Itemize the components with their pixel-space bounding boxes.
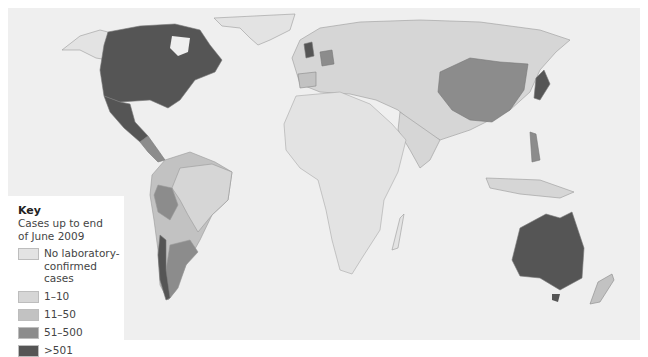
legend-subtitle-line1: Cases up to end [18,217,124,230]
legend-item-51-500: 51–500 [18,326,124,339]
legend-swatch [18,291,39,303]
region-argentina [166,240,198,298]
legend-swatch [18,248,39,260]
region-africa [284,92,406,274]
legend-swatch [18,345,39,357]
legend-item-over-501: >501 [18,344,124,357]
legend-label: 1–10 [44,290,69,303]
legend-swatch [18,327,39,339]
legend-label: confirmed cases [44,260,124,285]
region-usa-canada [100,24,222,108]
region-indonesia [486,178,574,198]
legend-label: No laboratory- [44,247,124,260]
legend: Key Cases up to end of June 2009 No labo… [8,196,124,340]
legend-item-1-10: 1–10 [18,290,124,303]
legend-item-11-50: 11–50 [18,308,124,321]
region-uk [304,42,314,58]
region-spain [298,72,316,88]
region-central-america [140,136,165,162]
region-greenland [214,14,295,45]
legend-label: 51–500 [44,326,83,339]
region-madagascar [392,214,404,250]
region-mexico [104,96,148,142]
legend-label: 11–50 [44,308,76,321]
region-germany [320,50,334,66]
region-australia [512,212,584,290]
region-philippines [530,132,540,162]
region-alaska [62,30,108,60]
region-new-zealand [590,274,614,304]
legend-label: >501 [44,344,73,357]
legend-swatch [18,309,39,321]
legend-item-none: No laboratory- confirmed cases [18,247,124,285]
legend-title: Key [18,204,124,217]
legend-subtitle-line2: of June 2009 [18,230,124,243]
region-tasmania [552,294,560,302]
